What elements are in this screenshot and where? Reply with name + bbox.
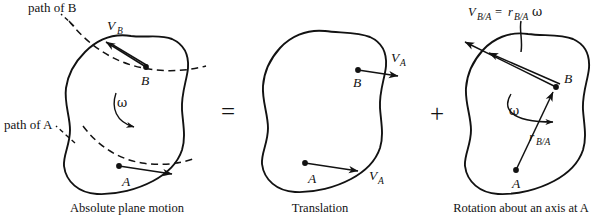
velocity-a-upper-label: V A <box>391 50 406 68</box>
omega-label-absolute: ω <box>117 95 127 110</box>
body-outline-absolute <box>64 35 188 194</box>
relative-position-symbol: r <box>529 129 535 144</box>
point-a-dot-absolute <box>116 163 122 169</box>
velocity-vector-b-tangent <box>113 45 148 66</box>
path-of-a-label: path of A <box>4 117 53 132</box>
relative-position-label: r B/A <box>529 129 550 147</box>
path-of-b-curve <box>69 21 206 71</box>
velocity-b-subscript: B <box>117 26 123 36</box>
relative-position-subscript: B/A <box>536 137 550 147</box>
path-of-a-leader <box>56 126 75 143</box>
formula-equals: = <box>495 5 502 19</box>
formula-leader-line <box>520 21 521 52</box>
velocity-vector-a-upper <box>358 70 398 76</box>
point-a-label-absolute: A <box>121 174 131 189</box>
point-a-label-translation: A <box>307 171 317 186</box>
velocity-a-lower-subscript: A <box>377 176 384 186</box>
formula-rhs-subscript: B/A <box>514 12 528 22</box>
velocity-vector-a-absolute <box>119 166 172 174</box>
caption-rotation: Rotation about an axis at A <box>453 201 589 215</box>
point-a-dot-translation <box>302 160 308 166</box>
point-a-dot-rotation <box>513 167 519 173</box>
formula-lhs-subscript: B/A <box>477 12 491 22</box>
velocity-a-upper-subscript: A <box>399 58 406 68</box>
velocity-vector-a-lower <box>305 163 358 171</box>
point-b-dot-absolute <box>143 64 149 70</box>
point-b-dot-translation <box>355 67 361 73</box>
point-b-label-absolute: B <box>141 73 149 88</box>
relative-velocity-formula: V B/A = r B/A ω <box>468 4 542 22</box>
plus-operator: + <box>430 100 444 127</box>
formula-omega: ω <box>532 4 542 19</box>
figure-root: path of B path of A B A V B ω Absolute p… <box>0 0 605 223</box>
formula-rhs-symbol: r <box>508 5 513 19</box>
relative-velocity-vector <box>465 42 556 87</box>
caption-absolute-plane-motion: Absolute plane motion <box>70 201 185 215</box>
panel-absolute-plane-motion: path of B path of A B A V B ω Absolute p… <box>4 0 206 215</box>
path-of-b-label: path of B <box>28 0 77 15</box>
omega-label-rotation: ω <box>509 103 519 118</box>
point-b-dot-rotation <box>553 84 559 90</box>
point-a-label-rotation: A <box>511 176 521 191</box>
point-b-label-rotation: B <box>564 71 572 86</box>
panel-translation: B A V A V A Translation <box>262 31 406 215</box>
body-outline-rotation <box>465 33 589 194</box>
relative-position-vector <box>516 92 553 170</box>
panel-rotation: B A ω r B/A V B/A = r B/A ω Rotation abo… <box>453 4 589 215</box>
caption-translation: Translation <box>292 201 349 215</box>
mechanics-diagram: path of B path of A B A V B ω Absolute p… <box>0 0 605 223</box>
point-b-label-translation: B <box>353 75 361 90</box>
path-of-b-leader <box>61 14 74 26</box>
velocity-b-label: V B <box>107 18 123 36</box>
body-outline-translation <box>262 31 386 192</box>
equals-operator: = <box>221 98 235 125</box>
velocity-a-lower-label: V A <box>369 168 384 186</box>
velocity-b-symbol: V <box>107 18 117 33</box>
formula-lhs-symbol: V <box>468 5 477 19</box>
relative-velocity-vector-outer <box>489 53 560 84</box>
